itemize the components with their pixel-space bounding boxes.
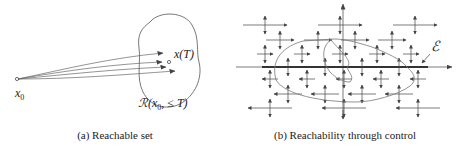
control-arrow-cross <box>243 16 287 34</box>
figure-a-reachable-set: x0 x(T) ℛ(x0, ≤ T) (a) Reachable set <box>14 14 200 142</box>
target-point <box>167 60 170 63</box>
equilibrium-pointer <box>422 54 430 63</box>
reachable-curve <box>275 39 415 102</box>
control-arrow-cross <box>257 45 273 63</box>
figure-canvas: x0 x(T) ℛ(x0, ≤ T) (a) Reachable set ℰ (… <box>0 0 457 150</box>
control-arrow-cross <box>248 99 292 117</box>
caption-b: (b) Reachability through control <box>274 129 416 142</box>
control-arrow-cross <box>393 16 437 34</box>
equilibrium-label: ℰ <box>431 39 441 54</box>
control-arrow-cross <box>385 85 413 103</box>
control-arrow-cross <box>332 45 348 63</box>
control-arrow-cross <box>299 70 315 88</box>
target-label: x(T) <box>173 47 194 61</box>
reachable-set-label: ℛ(x0, ≤ T) <box>138 96 188 112</box>
control-arrow-cross <box>378 31 406 49</box>
start-point <box>15 77 18 80</box>
control-arrow-cross <box>396 99 440 117</box>
control-arrow-cross <box>369 45 385 63</box>
control-arrow-cross <box>373 70 389 88</box>
trajectories <box>18 53 175 79</box>
start-label: x0 <box>14 86 24 102</box>
control-arrow-cross <box>403 45 419 63</box>
figure-b-reachability-through-control: ℰ (b) Reachability through control <box>236 4 452 142</box>
caption-a: (a) Reachable set <box>77 129 153 142</box>
control-arrow-cross <box>294 45 310 63</box>
control-arrow-cross <box>318 16 362 34</box>
